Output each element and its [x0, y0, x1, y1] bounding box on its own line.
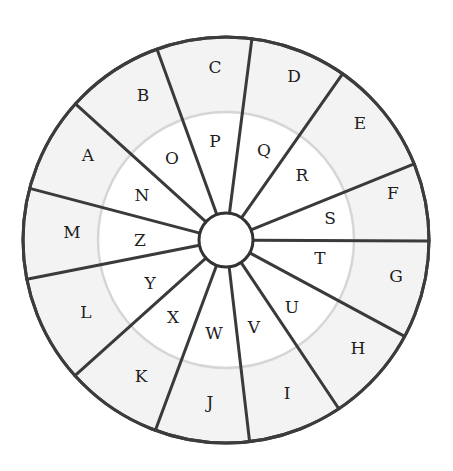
outer-letter-k: K	[135, 366, 148, 386]
outer-letter-b: B	[137, 85, 150, 105]
inner-letter-x: X	[167, 307, 180, 327]
outer-letter-i: I	[284, 383, 291, 403]
inner-letter-u: U	[285, 297, 299, 317]
outer-letter-e: E	[354, 113, 366, 133]
outer-letter-j: J	[205, 392, 214, 412]
inner-letter-z: Z	[134, 230, 146, 250]
center-hub	[199, 213, 253, 267]
inner-letter-r: R	[296, 165, 310, 185]
outer-letter-f: F	[387, 183, 399, 203]
inner-letter-t: T	[314, 248, 326, 268]
inner-letter-p: P	[209, 131, 220, 151]
outer-letter-h: H	[351, 338, 366, 358]
outer-letter-d: D	[287, 66, 301, 86]
spoke-divider	[253, 240, 429, 241]
outer-letter-c: C	[208, 57, 221, 77]
inner-letter-q: Q	[257, 140, 271, 160]
inner-letter-n: N	[135, 185, 150, 205]
outer-letter-l: L	[80, 302, 91, 322]
inner-letter-v: V	[247, 317, 261, 337]
outer-letter-a: A	[81, 145, 95, 165]
inner-letter-y: Y	[143, 273, 156, 293]
inner-letter-o: O	[165, 148, 179, 168]
outer-letter-g: G	[389, 266, 403, 286]
inner-letter-s: S	[324, 208, 336, 228]
inner-letter-w: W	[205, 323, 223, 343]
cipher-wheel: CDEFGHIJKLMAB PQRSTUVWXYZNO	[0, 0, 453, 471]
outer-letter-m: M	[63, 222, 80, 242]
